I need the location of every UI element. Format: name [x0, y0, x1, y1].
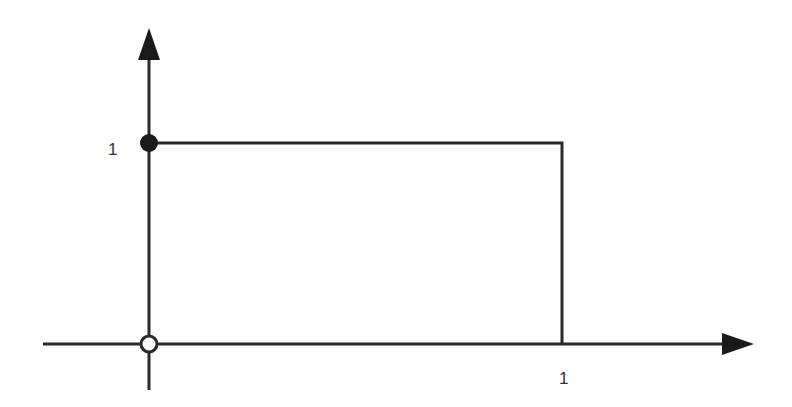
open-point-marker	[141, 336, 157, 352]
y-tick-label: 1	[108, 140, 117, 159]
step-function-line	[149, 143, 562, 344]
x-tick-label: 1	[559, 369, 568, 388]
chart-canvas: 1 1	[0, 0, 792, 407]
x-axis-arrow-icon	[722, 333, 754, 355]
y-axis-arrow-icon	[138, 28, 160, 60]
filled-point-marker	[140, 134, 158, 152]
